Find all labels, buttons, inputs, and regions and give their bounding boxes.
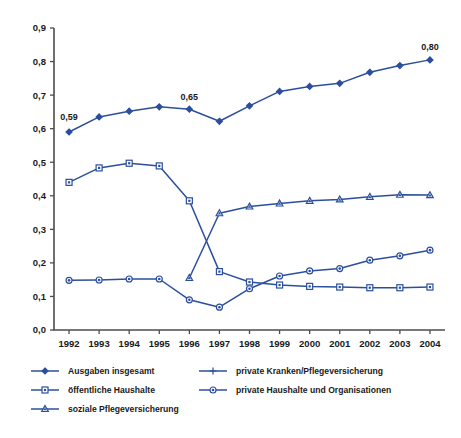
x-tick-label: 2002 <box>359 338 380 349</box>
legend-label: private Haushalte und Organisationen <box>236 386 391 395</box>
legend-label: private Kranken/Pflegeversicherung <box>236 367 383 376</box>
marker-core <box>309 285 311 287</box>
x-tick-group: 1992199319941995199619971998199920002001… <box>58 330 441 349</box>
series-group <box>66 57 433 310</box>
data-point-diamond <box>42 368 48 374</box>
marker-core <box>399 255 402 258</box>
marker-core <box>399 287 401 289</box>
x-tick-label: 1996 <box>179 338 200 349</box>
legend-label: soziale Pflegeversicherung <box>68 405 179 414</box>
legend-item[interactable]: Ausgaben insgesamt <box>30 362 205 380</box>
marker-core <box>338 267 341 270</box>
series-line <box>69 60 430 132</box>
legend-item[interactable]: private Haushalte und Organisationen <box>198 381 448 399</box>
legend-column-right: private Kranken/Pflegeversicherungprivat… <box>198 362 448 400</box>
data-point-diamond <box>367 69 373 75</box>
legend-marker-triangle <box>30 403 60 415</box>
y-tick-label: 0,1 <box>33 291 47 302</box>
x-tick-label: 2003 <box>389 338 410 349</box>
legend-item[interactable]: soziale Pflegeversicherung <box>30 400 205 418</box>
marker-core <box>128 278 131 281</box>
y-tick-label: 0,3 <box>33 224 46 235</box>
legend-swatch <box>30 403 60 415</box>
x-tick-label: 1994 <box>119 338 141 349</box>
series-line <box>69 163 430 287</box>
series-diamond <box>66 57 433 135</box>
legend-item[interactable]: öffentliche Haushalte <box>30 381 205 399</box>
marker-core <box>248 281 250 283</box>
data-point-diamond <box>126 108 132 114</box>
plot-area: 0,00,10,20,30,40,50,60,70,80,9 199219931… <box>0 0 461 360</box>
data-point-diamond <box>337 80 343 86</box>
legend-swatch <box>30 365 60 377</box>
marker-core <box>68 181 70 183</box>
series-square <box>66 160 433 290</box>
marker-core <box>44 389 46 391</box>
marker-core <box>248 287 251 290</box>
marker-core <box>158 278 161 281</box>
marker-core <box>278 284 280 286</box>
data-point-diamond <box>156 104 162 110</box>
marker-core <box>128 162 130 164</box>
y-tick-label: 0,7 <box>33 90 46 101</box>
y-tick-label: 0,8 <box>33 56 46 67</box>
line-chart: 0,00,10,20,30,40,50,60,70,80,9 199219931… <box>0 0 461 438</box>
series-triangle <box>186 191 433 280</box>
marker-core <box>308 270 311 273</box>
marker-core <box>369 259 372 262</box>
data-point-diamond <box>216 118 222 124</box>
marker-core <box>98 167 100 169</box>
marker-core <box>188 299 191 302</box>
marker-core <box>429 286 431 288</box>
chart-canvas: 0,00,10,20,30,40,50,60,70,80,9 199219931… <box>0 0 461 360</box>
legend-item[interactable]: private Kranken/Pflegeversicherung <box>198 362 448 380</box>
marker-core <box>369 287 371 289</box>
x-tick-label: 1997 <box>209 338 230 349</box>
legend-column-left: Ausgaben insgesamtöffentliche Haushaltes… <box>30 362 205 419</box>
x-tick-label: 1993 <box>89 338 110 349</box>
legend-label: Ausgaben insgesamt <box>68 367 154 376</box>
marker-core <box>218 306 221 309</box>
data-point-diamond <box>307 83 313 89</box>
data-point-diamond <box>397 63 403 69</box>
series-line <box>189 195 430 278</box>
x-tick-label: 2001 <box>329 338 351 349</box>
marker-core <box>158 165 160 167</box>
data-point-plus <box>210 368 217 375</box>
data-point-diamond <box>66 129 72 135</box>
legend-marker-circle <box>198 384 228 396</box>
data-value-label: 0,59 <box>60 112 78 122</box>
legend-swatch <box>198 365 228 377</box>
x-tick-label: 2004 <box>419 338 441 349</box>
y-tick-label: 0,6 <box>33 123 46 134</box>
data-value-label: 0,65 <box>181 92 199 102</box>
x-tick-label: 1992 <box>58 338 79 349</box>
chart-legend: Ausgaben insgesamtöffentliche Haushaltes… <box>0 362 461 438</box>
marker-core <box>212 389 215 392</box>
x-tick-label: 1995 <box>149 338 171 349</box>
data-value-label: 0,80 <box>421 42 439 52</box>
marker-core <box>339 286 341 288</box>
marker-core <box>429 249 432 252</box>
data-point-diamond <box>277 88 283 94</box>
marker-core <box>218 271 220 273</box>
data-point-diamond <box>186 106 192 112</box>
legend-marker-square <box>30 384 60 396</box>
marker-core <box>98 279 101 282</box>
legend-label: öffentliche Haushalte <box>68 386 155 395</box>
x-tick-label: 1999 <box>269 338 290 349</box>
legend-swatch <box>198 384 228 396</box>
y-tick-label: 0,9 <box>33 22 46 33</box>
marker-core <box>68 279 71 282</box>
x-tick-label: 2000 <box>299 338 320 349</box>
y-tick-label: 0,2 <box>33 257 46 268</box>
marker-core <box>188 200 190 202</box>
annotation-group: 0,590,650,80 <box>60 42 438 122</box>
legend-swatch <box>30 384 60 396</box>
legend-marker-diamond <box>30 365 60 377</box>
y-tick-label: 0,0 <box>33 324 46 335</box>
legend-marker-plus <box>198 365 228 377</box>
y-tick-group: 0,00,10,20,30,40,50,60,70,80,9 <box>33 22 54 335</box>
y-tick-label: 0,4 <box>33 190 47 201</box>
x-tick-label: 1998 <box>239 338 260 349</box>
